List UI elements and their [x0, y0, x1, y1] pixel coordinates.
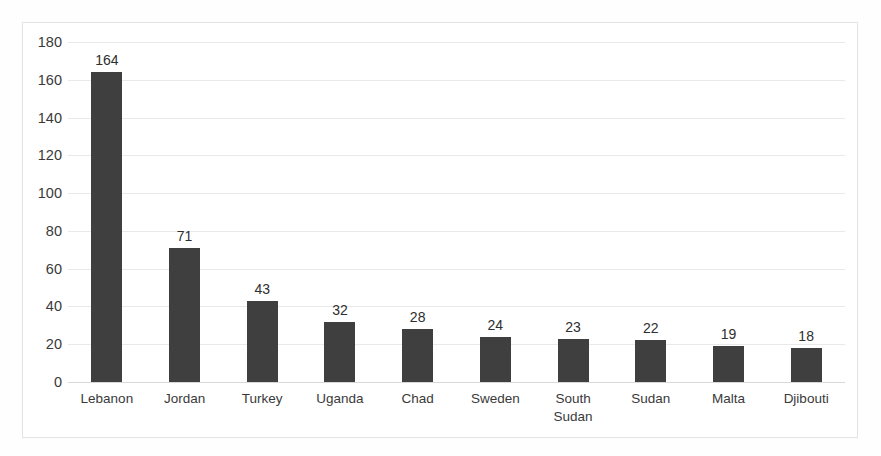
x-axis-tick-label: Sweden	[450, 390, 540, 408]
x-axis-tick-label: Uganda	[295, 390, 385, 408]
bar	[247, 301, 278, 382]
x-axis-tick-label: Chad	[373, 390, 463, 408]
y-axis-tick-label: 40	[22, 299, 62, 314]
y-axis: 180160140120100806040200	[22, 42, 62, 382]
y-axis-tick-label: 80	[22, 224, 62, 239]
bar	[480, 337, 511, 382]
y-axis-tick-label: 100	[22, 186, 62, 201]
bar-value-label: 164	[72, 53, 142, 67]
bar-value-label: 43	[227, 282, 297, 296]
x-axis-tick-label: Jordan	[140, 390, 230, 408]
bar-value-label: 22	[616, 321, 686, 335]
bar-value-label: 28	[383, 310, 453, 324]
x-axis-tick-label: Djibouti	[761, 390, 851, 408]
bar	[91, 72, 122, 382]
bar-value-label: 18	[771, 329, 841, 343]
x-axis-tick-label: South Sudan	[528, 390, 618, 426]
bar-value-label: 19	[693, 327, 763, 341]
y-axis-tick-label: 160	[22, 73, 62, 88]
bar-chart: 180160140120100806040200 164714332282423…	[0, 0, 881, 456]
bar	[324, 322, 355, 382]
bar-value-label: 32	[305, 303, 375, 317]
y-axis-tick-label: 0	[22, 375, 62, 390]
y-axis-tick-label: 180	[22, 35, 62, 50]
y-axis-tick-label: 140	[22, 110, 62, 125]
bar	[558, 339, 589, 382]
bar-value-label: 24	[460, 318, 530, 332]
gridline	[68, 382, 845, 383]
bar-value-label: 23	[538, 320, 608, 334]
x-axis-tick-label: Lebanon	[62, 390, 152, 408]
x-axis: LebanonJordanTurkeyUgandaChadSwedenSouth…	[68, 390, 845, 438]
bars-layer: 164714332282423221918	[68, 42, 845, 382]
x-axis-tick-label: Sudan	[606, 390, 696, 408]
bar	[635, 340, 666, 382]
bar	[402, 329, 433, 382]
y-axis-tick-label: 20	[22, 337, 62, 352]
bar	[791, 348, 822, 382]
x-axis-tick-label: Turkey	[217, 390, 307, 408]
bar-value-label: 71	[150, 229, 220, 243]
x-axis-tick-label: Malta	[683, 390, 773, 408]
bar	[713, 346, 744, 382]
y-axis-tick-label: 60	[22, 261, 62, 276]
y-axis-tick-label: 120	[22, 148, 62, 163]
bar	[169, 248, 200, 382]
